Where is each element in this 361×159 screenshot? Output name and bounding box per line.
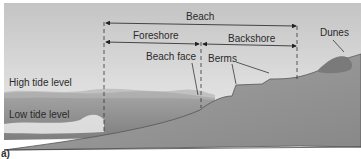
low-tide-label: Low tide level <box>9 109 70 120</box>
beach-profile-diagram: Beach Foreshore Backshore Dunes Beach fa… <box>0 0 361 159</box>
dunes-label: Dunes <box>320 27 349 38</box>
backshore-label: Backshore <box>228 33 276 44</box>
berms-label: Berms <box>208 53 237 64</box>
beach-face-label: Beach face <box>146 51 196 62</box>
panel-label: a) <box>1 148 10 159</box>
foreshore-label: Foreshore <box>133 30 179 41</box>
beach-label: Beach <box>186 11 214 22</box>
high-tide-label: High tide level <box>9 77 72 88</box>
